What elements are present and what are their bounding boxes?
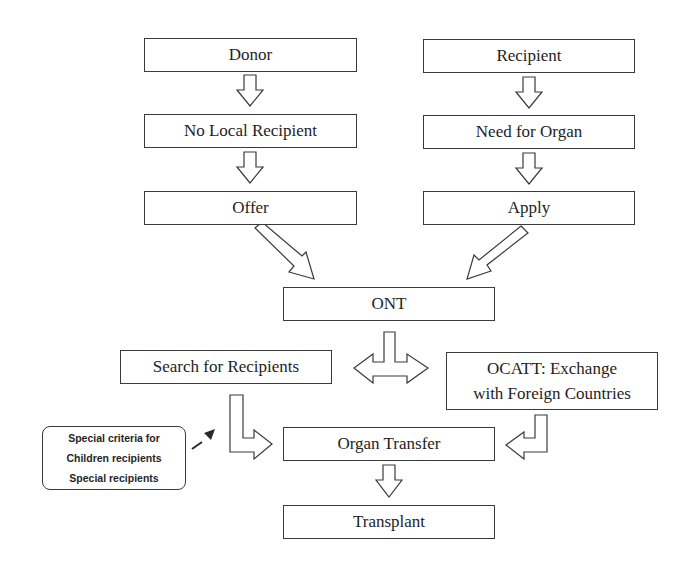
node-ocatt-exchange: OCATT: Exchange with Foreign Countries [446, 352, 658, 410]
node-label: Offer [232, 198, 269, 218]
note-line-2: Children recipients [66, 448, 161, 468]
node-label: No Local Recipient [184, 121, 317, 141]
node-no-local-recipient: No Local Recipient [144, 114, 357, 148]
down-arrow-icon [237, 75, 263, 106]
node-transplant: Transplant [283, 505, 495, 539]
node-offer: Offer [144, 191, 357, 225]
node-label: Organ Transfer [337, 434, 440, 454]
down-arrow-icon [237, 152, 263, 183]
node-search-for-recipients: Search for Recipients [120, 350, 332, 384]
note-special-criteria: Special criteria for Children recipients… [42, 426, 186, 490]
node-label: Search for Recipients [153, 357, 299, 377]
node-ont: ONT [283, 287, 495, 321]
l-arrow-left-icon [506, 415, 547, 459]
note-line-3: Special recipients [69, 468, 158, 488]
node-label: Need for Organ [476, 122, 582, 142]
flowchart-canvas: Donor No Local Recipient Offer Recipient… [0, 0, 693, 572]
node-label: Recipient [496, 46, 561, 66]
l-arrow-right-icon [230, 395, 272, 459]
down-arrow-icon [516, 153, 542, 184]
node-label-line-1: OCATT: Exchange [487, 359, 617, 379]
node-label: Donor [229, 45, 272, 65]
node-label: Apply [508, 198, 551, 218]
node-donor: Donor [144, 38, 357, 72]
double-arrow-split-icon [354, 332, 428, 383]
diagonal-arrow-down-left-icon [467, 226, 528, 279]
node-need-for-organ: Need for Organ [423, 115, 635, 149]
node-label: ONT [372, 294, 407, 314]
node-recipient: Recipient [423, 39, 635, 73]
down-arrow-icon [516, 77, 542, 108]
note-line-1: Special criteria for [68, 428, 160, 448]
dashed-arrow-icon [192, 429, 215, 449]
diagonal-arrow-down-right-icon [255, 222, 314, 279]
node-organ-transfer: Organ Transfer [283, 427, 495, 461]
node-label-line-2: with Foreign Countries [473, 384, 631, 404]
node-label: Transplant [353, 512, 425, 532]
down-arrow-icon [376, 465, 402, 497]
node-apply: Apply [423, 191, 635, 225]
